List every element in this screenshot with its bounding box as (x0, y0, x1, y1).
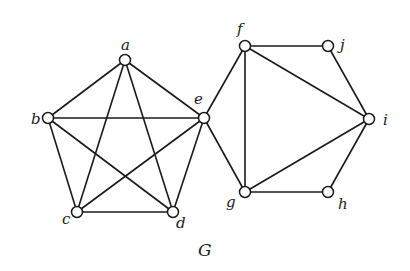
vertex-label-a: a (121, 36, 130, 54)
graph-name-label: G (198, 240, 212, 260)
edge-h-i (328, 119, 369, 192)
edge-e-f (204, 46, 245, 118)
vertex-i (364, 114, 375, 125)
edge-a-b (48, 60, 125, 118)
vertex-label-f: f (236, 20, 245, 38)
vertex-label-c: c (62, 210, 71, 228)
vertex-label-g: g (226, 193, 236, 211)
vertex-e (199, 113, 210, 124)
vertex-label-b: b (31, 110, 41, 128)
vertex-c (72, 207, 83, 218)
vertex-j (323, 41, 334, 52)
vertex-b (43, 113, 54, 124)
edge-e-g (204, 118, 245, 192)
edge-c-e (77, 118, 204, 212)
edge-j-i (328, 46, 369, 119)
edge-f-i (245, 46, 369, 119)
vertex-a (120, 55, 131, 66)
vertex-label-e: e (194, 90, 203, 108)
edge-g-i (245, 119, 369, 192)
vertex-label-h: h (338, 195, 348, 213)
labels-layer: abcdefghij (31, 20, 388, 232)
vertex-f (240, 41, 251, 52)
vertices-layer (43, 41, 375, 218)
vertex-label-i: i (383, 111, 388, 129)
vertex-label-j: j (337, 36, 345, 54)
edge-d-e (173, 118, 204, 212)
edge-a-e (125, 60, 204, 118)
edge-b-d (48, 118, 173, 212)
edge-a-c (77, 60, 125, 212)
edges-layer (48, 46, 369, 212)
vertex-g (240, 187, 251, 198)
vertex-h (323, 187, 334, 198)
vertex-label-d: d (176, 214, 186, 232)
graph-diagram: abcdefghij G (0, 0, 410, 271)
edge-b-c (48, 118, 77, 212)
edge-a-d (125, 60, 173, 212)
